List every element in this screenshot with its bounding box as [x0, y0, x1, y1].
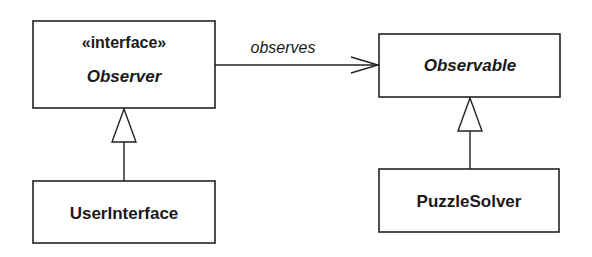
class-puzzlesolver: PuzzleSolver [379, 169, 559, 232]
hollow-triangle-icon [458, 98, 482, 131]
class-observer: «interface» Observer [33, 21, 215, 108]
userinterface-name: UserInterface [70, 204, 179, 223]
class-observable: Observable [379, 34, 560, 97]
hollow-triangle-icon [112, 109, 136, 142]
observer-name: Observer [87, 67, 163, 86]
generalization-puzzlesolver-observable [458, 98, 482, 169]
generalization-userinterface-observer [112, 109, 136, 181]
class-userinterface: UserInterface [33, 181, 215, 243]
association-label: observes [251, 39, 316, 56]
uml-class-diagram: «interface» Observer observes Observable… [0, 0, 592, 257]
puzzlesolver-name: PuzzleSolver [417, 192, 522, 211]
observer-stereotype: «interface» [82, 34, 167, 51]
observable-name: Observable [424, 56, 517, 75]
association-observes: observes [215, 39, 379, 73]
